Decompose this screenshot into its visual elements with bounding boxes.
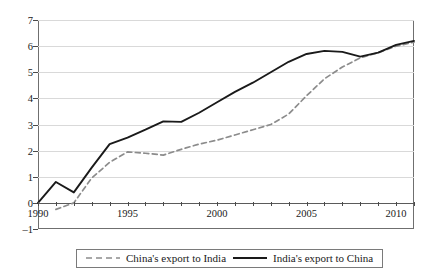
legend-label-india-export: India's export to China [273,252,373,264]
x-axis-tick [92,202,93,206]
x-axis-tick [378,202,379,206]
y-axis-tick-label: 3 [5,119,33,130]
x-axis-ticks [38,202,414,207]
y-axis-tick [33,229,38,230]
x-axis-tick [289,202,290,206]
x-axis-tick [74,202,75,206]
legend-item-india-export: India's export to China [233,252,373,264]
x-axis-tick [145,202,146,206]
x-axis-tick [199,202,200,206]
solid-line-swatch [233,254,267,262]
x-axis-tick [217,202,218,206]
x-axis-tick [235,202,236,206]
y-axis-labels: 76543210–1 [0,20,33,229]
y-axis-tick-label: –1 [5,224,33,235]
x-axis-tick [128,202,129,206]
x-axis-tick-label: 1995 [117,208,138,219]
x-axis-tick [253,202,254,206]
x-axis-tick [342,202,343,206]
series-line [38,41,414,203]
x-axis-tick [271,202,272,206]
x-axis-tick [38,202,39,206]
x-axis-tick [396,202,397,206]
x-axis-tick [360,202,361,206]
y-axis-tick-label: 5 [5,67,33,78]
x-axis-tick [181,202,182,206]
legend-item-china-export: China's export to India [86,252,226,264]
dashed-line-swatch [86,254,120,262]
x-axis-tick [163,202,164,206]
chart-legend: China's export to India India's export t… [76,249,383,268]
x-axis-tick [324,202,325,206]
x-axis-tick [414,202,415,206]
x-axis-tick-label: 1990 [28,208,49,219]
y-axis-tick-label: 7 [5,15,33,26]
x-axis-tick-label: 2010 [386,208,407,219]
line-chart: 76543210–1 19901995200020052010 China's … [0,0,430,277]
y-axis-tick-label: 0 [5,197,33,208]
series-lines [38,20,414,229]
x-axis-tick [56,202,57,206]
x-axis-tick-label: 2000 [207,208,228,219]
x-axis-tick [110,202,111,206]
x-axis-labels: 19901995200020052010 [38,208,414,224]
x-axis-tick [307,202,308,206]
y-axis-tick-label: 1 [5,171,33,182]
series-line [56,42,414,209]
x-axis-tick-label: 2005 [296,208,317,219]
y-axis-tick-label: 4 [5,93,33,104]
legend-label-china-export: China's export to India [126,252,226,264]
y-axis-tick-label: 2 [5,145,33,156]
y-axis-tick-label: 6 [5,41,33,52]
